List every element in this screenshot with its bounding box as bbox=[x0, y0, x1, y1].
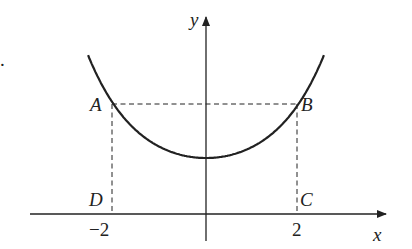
y-axis-label: y bbox=[188, 9, 199, 30]
point-label-d: D bbox=[88, 189, 103, 210]
point-label-a: A bbox=[88, 94, 102, 115]
point-label-c: C bbox=[300, 189, 313, 210]
fragment-text: . bbox=[0, 49, 5, 70]
tick-label-neg2: −2 bbox=[89, 219, 109, 240]
point-label-b: B bbox=[301, 94, 313, 115]
tick-label-2: 2 bbox=[292, 219, 302, 240]
diagram: . y x A B C D −2 2 bbox=[0, 0, 412, 249]
x-axis-label: x bbox=[372, 224, 382, 245]
